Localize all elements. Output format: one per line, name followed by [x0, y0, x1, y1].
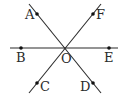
geometry-diagram: AFBECDO [0, 0, 126, 102]
point-f [91, 12, 95, 16]
label-b: B [16, 50, 26, 65]
label-e: E [104, 50, 114, 65]
label-f: F [96, 7, 105, 22]
label-o: O [61, 51, 72, 66]
point-c [35, 81, 39, 85]
labels-layer: AFBECDO [16, 7, 114, 94]
point-a [35, 12, 39, 16]
label-c: C [40, 79, 50, 94]
label-d: D [80, 79, 90, 94]
point-d [91, 81, 95, 85]
label-a: A [24, 7, 35, 22]
